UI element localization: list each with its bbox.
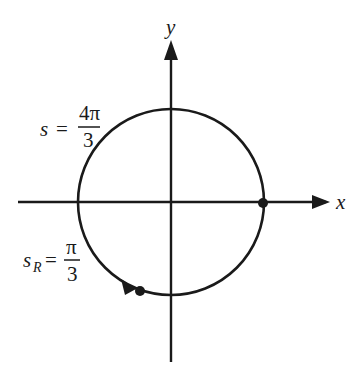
y-axis-arrow-icon: [164, 40, 178, 60]
end-point: [135, 286, 145, 296]
sr-equals: =: [45, 248, 57, 272]
sr-denominator: 3: [67, 262, 78, 286]
start-point: [258, 198, 268, 208]
arc-length-label: s = 4π 3: [40, 101, 101, 152]
sr-numerator: π: [66, 235, 77, 259]
sr-subscript: R: [32, 260, 42, 275]
sr-variable: s: [23, 248, 31, 272]
y-axis-label: y: [164, 15, 176, 39]
x-axis-label: x: [335, 190, 346, 214]
x-axis-arrow-icon: [312, 195, 330, 209]
s-variable: s: [40, 117, 48, 141]
reference-arc-label: s R = π 3: [23, 235, 80, 286]
s-numerator: 4π: [79, 101, 101, 125]
s-equals: =: [56, 117, 68, 141]
unit-circle-diagram: y x s = 4π 3 s R = π 3: [0, 0, 356, 365]
s-denominator: 3: [83, 128, 94, 152]
